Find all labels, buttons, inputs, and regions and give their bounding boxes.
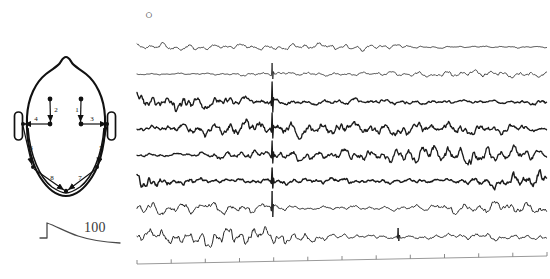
head-outline: [27, 57, 105, 196]
channel-number-1: 1: [75, 106, 79, 114]
ch1-trace: [137, 42, 547, 51]
electrode-dot: [95, 165, 99, 169]
time-axis: [137, 252, 547, 264]
channel-number-4: 4: [34, 115, 38, 123]
channel-number-7: 7: [78, 174, 82, 182]
electrode-dot: [48, 97, 53, 102]
head-inner-arc: [28, 128, 104, 193]
electrode-dot: [105, 122, 109, 126]
ch8-trace: [137, 226, 547, 247]
channel-number-8: 8: [50, 174, 54, 182]
ch5-trace: [137, 141, 547, 165]
channel-number-3: 3: [90, 115, 94, 123]
montage-link-7: [68, 169, 96, 190]
montage-link-1: [81, 100, 82, 122]
calibration-scale: [40, 223, 120, 243]
eeg-traces: [137, 42, 547, 247]
calibration-value-label: 100: [84, 221, 106, 235]
channel-number-5: 5: [99, 144, 103, 152]
channel-number-2: 2: [54, 106, 58, 114]
eeg-figure: 12345678 ○ 100: [0, 0, 550, 279]
right-ear-icon: [108, 112, 116, 140]
ch2-trace: [137, 63, 547, 79]
electrode-dot: [31, 165, 35, 169]
calibration-waveform: [40, 223, 120, 243]
circle-marker-icon: ○: [145, 8, 153, 21]
electrode-dot: [21, 122, 25, 126]
ch3-trace: [137, 82, 547, 112]
electrode-dot: [64, 189, 68, 193]
ch7-trace: [137, 191, 547, 217]
electrode-dot: [79, 97, 84, 102]
ch4-trace: [137, 113, 547, 139]
electrode-dot: [79, 122, 84, 127]
electrode-dots: [21, 97, 109, 194]
ch6-trace: [137, 168, 547, 190]
channel-number-6: 6: [29, 144, 33, 152]
head-electrode-montage: 12345678: [15, 57, 116, 196]
montage-link-2: [50, 100, 51, 122]
electrode-dot: [48, 122, 53, 127]
figure-canvas: 12345678: [0, 0, 550, 279]
left-ear-icon: [15, 112, 23, 140]
